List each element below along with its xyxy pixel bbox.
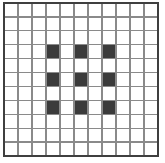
filled-cell [46,73,60,87]
filled-cell [74,100,88,114]
filled-cell [102,73,116,87]
filled-cell [102,45,116,59]
filled-cell [46,45,60,59]
filled-cell-group [46,45,116,115]
filled-cell [74,73,88,87]
grid-figure [0,0,165,163]
filled-cell [102,100,116,114]
filled-cell [46,100,60,114]
filled-cell [74,45,88,59]
grid-diagram [0,0,165,163]
